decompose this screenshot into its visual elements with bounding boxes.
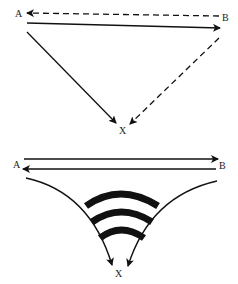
bottom-diagram: A B X <box>13 159 226 279</box>
top-diagram: A B X <box>15 8 229 136</box>
diagram-canvas: A B X A B X <box>0 0 238 284</box>
band-2 <box>92 212 152 222</box>
node-label-b-top: B <box>222 12 229 23</box>
solid-arrow-a-to-x <box>27 32 116 123</box>
interference-bands <box>86 194 158 238</box>
band-3 <box>100 230 144 238</box>
node-label-b-bottom: B <box>219 160 226 171</box>
curved-arrow-b-to-x <box>128 181 217 266</box>
solid-arrow-a-to-b <box>27 23 220 28</box>
node-label-x-top: X <box>119 125 127 136</box>
node-label-x-bottom: X <box>115 268 123 279</box>
dashed-arrow-b-to-a <box>27 13 219 16</box>
node-label-a-top: A <box>15 8 23 19</box>
dashed-arrow-b-to-x <box>130 38 219 124</box>
node-label-a-bottom: A <box>13 159 21 170</box>
band-1 <box>86 194 158 206</box>
